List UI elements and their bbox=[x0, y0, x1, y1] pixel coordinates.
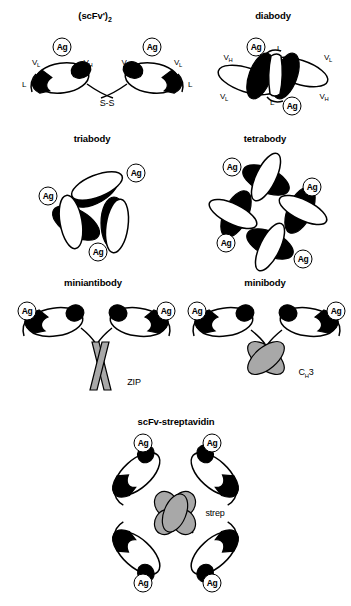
ag-site: Ag bbox=[283, 97, 302, 116]
ag-site: Ag bbox=[327, 302, 346, 321]
ag-site: Ag bbox=[143, 38, 162, 57]
ag-site: Ag bbox=[217, 234, 236, 253]
ag-site: Ag bbox=[203, 434, 222, 453]
ag-site: Ag bbox=[247, 38, 266, 57]
ag-site: Ag bbox=[18, 302, 37, 321]
scfv-streptavidin-graphic bbox=[0, 0, 351, 606]
ag-site: Ag bbox=[89, 243, 108, 262]
ag-site: Ag bbox=[294, 250, 313, 269]
ag-site: Ag bbox=[157, 302, 176, 321]
streptavidin-core-label: strep bbox=[205, 508, 224, 518]
ag-site: Ag bbox=[303, 178, 322, 197]
ag-site: Ag bbox=[134, 574, 153, 593]
ag-site: Ag bbox=[188, 302, 207, 321]
ag-site: Ag bbox=[53, 38, 72, 57]
ag-site: Ag bbox=[39, 187, 58, 206]
ag-site: Ag bbox=[127, 164, 146, 183]
ag-site: Ag bbox=[134, 434, 153, 453]
ag-site: Ag bbox=[223, 158, 242, 177]
antibody-formats-figure: (scFv')2 Ag Ag VL VH VH VL bbox=[0, 0, 351, 606]
ag-site: Ag bbox=[203, 574, 222, 593]
